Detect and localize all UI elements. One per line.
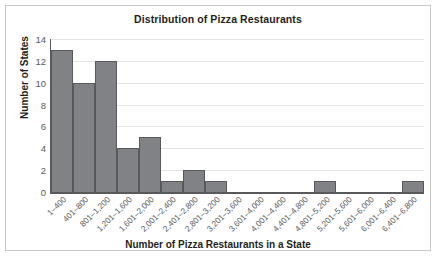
bar-slot bbox=[402, 39, 424, 192]
bar-slot bbox=[336, 39, 358, 192]
bar bbox=[183, 170, 205, 192]
bar-slot bbox=[139, 39, 161, 192]
bar bbox=[95, 61, 117, 192]
bar-slot bbox=[161, 39, 183, 192]
y-axis-tick-label: 14 bbox=[35, 34, 46, 45]
y-axis-tick-label: 0 bbox=[41, 187, 46, 198]
bar-series bbox=[51, 39, 424, 192]
chart-frame: Distribution of Pizza Restaurants Number… bbox=[5, 5, 431, 251]
bar bbox=[73, 83, 95, 192]
bar-slot bbox=[314, 39, 336, 192]
bar bbox=[402, 181, 424, 192]
bar-slot bbox=[205, 39, 227, 192]
x-tick-slot: 6,401–6,800 bbox=[402, 194, 424, 238]
bar bbox=[51, 50, 73, 192]
bar-slot bbox=[248, 39, 270, 192]
bar-slot bbox=[73, 39, 95, 192]
x-axis-title: Number of Pizza Restaurants in a State bbox=[6, 239, 430, 250]
y-axis-tick-label: 2 bbox=[41, 165, 46, 176]
bar bbox=[139, 137, 161, 192]
bar-slot bbox=[270, 39, 292, 192]
y-axis-tick-label: 6 bbox=[41, 121, 46, 132]
bar bbox=[314, 181, 336, 192]
bar-slot bbox=[117, 39, 139, 192]
y-axis-tick-label: 4 bbox=[41, 143, 46, 154]
bar-slot bbox=[183, 39, 205, 192]
bar-slot bbox=[358, 39, 380, 192]
bar bbox=[117, 148, 139, 192]
bar-slot bbox=[380, 39, 402, 192]
y-axis-tick-label: 8 bbox=[41, 99, 46, 110]
y-axis-tick-label: 12 bbox=[35, 55, 46, 66]
y-axis-title: Number of States bbox=[19, 16, 30, 140]
chart-title: Distribution of Pizza Restaurants bbox=[6, 13, 430, 25]
bar bbox=[205, 181, 227, 192]
bar-slot bbox=[227, 39, 249, 192]
bar-slot bbox=[292, 39, 314, 192]
bar-slot bbox=[95, 39, 117, 192]
bar-slot bbox=[51, 39, 73, 192]
plot-area: 02468101214 bbox=[50, 39, 424, 192]
x-axis-tick-labels: 1–400401–800801–1,2001,201–1,6001,601–2,… bbox=[51, 194, 424, 238]
bar bbox=[161, 181, 183, 192]
y-axis-tick-label: 10 bbox=[35, 77, 46, 88]
